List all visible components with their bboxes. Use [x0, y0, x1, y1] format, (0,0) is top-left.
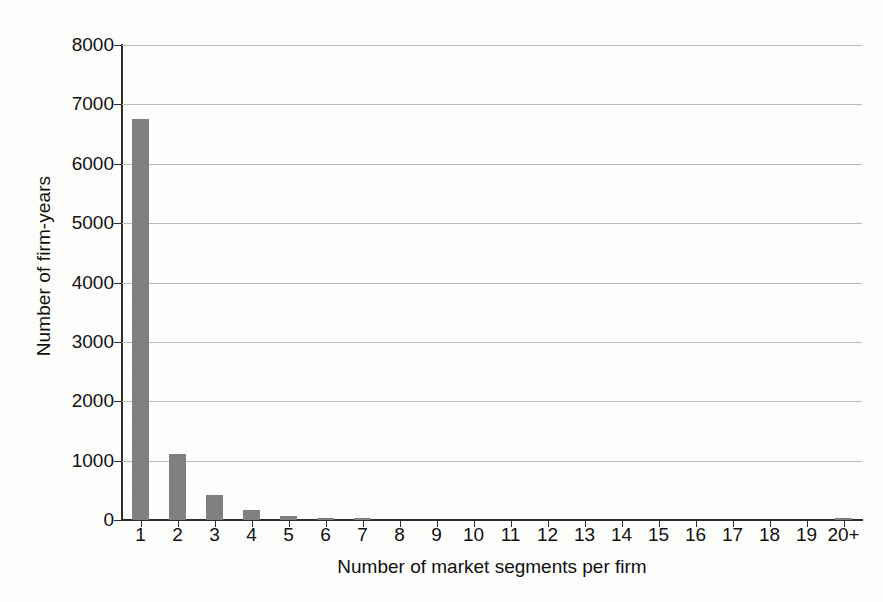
gridline-5000	[122, 223, 862, 224]
y-tick-label-2000: 2000	[44, 391, 114, 410]
y-tick-mark-8000	[114, 45, 122, 46]
x-tick-label-4: 4	[233, 524, 270, 546]
y-tick-label-4000: 4000	[44, 273, 114, 292]
bar-chart-figure: Number of firm-years 8000700060005000400…	[0, 0, 883, 602]
gridline-4000	[122, 283, 862, 284]
y-tick-mark-2000	[114, 401, 122, 402]
x-tick-label-11: 11	[492, 524, 529, 546]
plot-area	[122, 45, 862, 520]
bar-7	[354, 518, 371, 520]
bar-1	[132, 119, 149, 520]
y-tick-label-6000: 6000	[44, 154, 114, 173]
y-tick-label-5000: 5000	[44, 213, 114, 232]
x-tick-label-14: 14	[603, 524, 640, 546]
x-axis-tick-labels: 1234567891011121314151617181920+	[122, 524, 862, 550]
x-tick-label-7: 7	[344, 524, 381, 546]
gridline-7000	[122, 104, 862, 105]
x-tick-label-5: 5	[270, 524, 307, 546]
x-tick-label-19: 19	[788, 524, 825, 546]
gridline-1000	[122, 461, 862, 462]
x-tick-label-20+: 20+	[825, 524, 862, 546]
x-tick-label-8: 8	[381, 524, 418, 546]
y-tick-mark-6000	[114, 164, 122, 165]
x-tick-label-12: 12	[529, 524, 566, 546]
y-tick-label-1000: 1000	[44, 451, 114, 470]
x-tick-label-17: 17	[714, 524, 751, 546]
x-tick-label-2: 2	[159, 524, 196, 546]
y-tick-label-7000: 7000	[44, 94, 114, 113]
x-tick-label-1: 1	[122, 524, 159, 546]
gridline-6000	[122, 164, 862, 165]
y-tick-mark-0	[114, 520, 122, 521]
y-tick-mark-7000	[114, 104, 122, 105]
x-tick-label-16: 16	[677, 524, 714, 546]
y-tick-mark-4000	[114, 283, 122, 284]
x-tick-label-10: 10	[455, 524, 492, 546]
y-tick-mark-3000	[114, 342, 122, 343]
gridline-2000	[122, 401, 862, 402]
y-axis-tick-labels: 800070006000500040003000200010000	[38, 0, 114, 602]
gridline-8000	[122, 45, 862, 46]
y-tick-label-0: 0	[44, 510, 114, 529]
x-tick-label-6: 6	[307, 524, 344, 546]
y-tick-label-3000: 3000	[44, 332, 114, 351]
x-tick-label-13: 13	[566, 524, 603, 546]
x-tick-label-18: 18	[751, 524, 788, 546]
bar-3	[206, 495, 223, 520]
bar-4	[243, 510, 260, 520]
bar-2	[169, 454, 186, 521]
y-tick-mark-1000	[114, 461, 122, 462]
x-tick-label-3: 3	[196, 524, 233, 546]
bar-20+	[835, 518, 852, 520]
y-tick-mark-5000	[114, 223, 122, 224]
x-tick-label-15: 15	[640, 524, 677, 546]
x-tick-label-9: 9	[418, 524, 455, 546]
y-tick-label-8000: 8000	[44, 35, 114, 54]
bar-6	[317, 518, 334, 520]
bar-5	[280, 516, 297, 520]
gridline-3000	[122, 342, 862, 343]
x-axis-line	[121, 519, 863, 521]
x-axis-title: Number of market segments per firm	[122, 556, 862, 578]
